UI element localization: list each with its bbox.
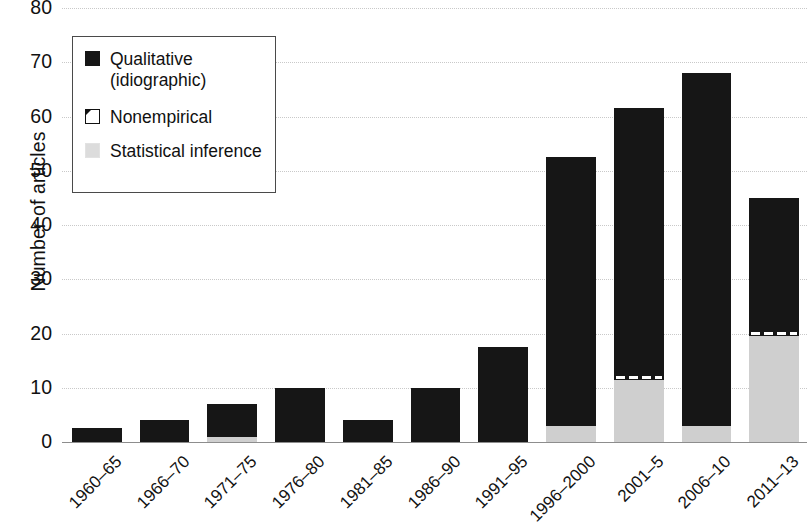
y-tick-label: 40 (8, 215, 52, 235)
bar-segment-qualitative (682, 73, 732, 426)
black-square-icon (85, 51, 100, 66)
y-tick-label: 80 (8, 0, 52, 18)
bar[interactable] (411, 388, 461, 442)
legend-item: Nonempirical (85, 107, 212, 128)
legend-item-label: Qualitative (idiographic) (110, 49, 206, 91)
bar[interactable] (207, 404, 257, 442)
legend-item: Qualitative (idiographic) (85, 49, 206, 91)
bar-segment-statistical-inference (546, 426, 596, 442)
bar-chart-figure: Number of articles 01020304050607080 196… (0, 0, 807, 523)
y-tick-label: 10 (8, 378, 52, 398)
bar-segment-statistical-inference (682, 426, 732, 442)
bar[interactable] (546, 157, 596, 442)
legend-item-label: Statistical inference (110, 141, 262, 162)
legend-item: Statistical inference (85, 141, 262, 162)
bar-segment-qualitative (275, 388, 325, 442)
bar[interactable] (749, 198, 799, 442)
y-tick-label: 50 (8, 161, 52, 181)
bar[interactable] (140, 420, 190, 442)
bar[interactable] (614, 108, 664, 442)
bar-segment-statistical-inference (207, 437, 257, 442)
x-axis-line (62, 442, 807, 443)
bar-segment-qualitative (140, 420, 190, 442)
bar-segment-nonempirical (614, 374, 664, 379)
nonempirical-dash-band (616, 376, 662, 379)
bar-segment-qualitative (72, 428, 122, 442)
bar[interactable] (343, 420, 393, 442)
nonempirical-dash-band (751, 332, 797, 335)
bar-segment-nonempirical (749, 331, 799, 336)
bar-segment-qualitative (207, 404, 257, 437)
bar[interactable] (682, 73, 732, 442)
white-square-icon (85, 109, 100, 124)
gray-square-icon (85, 143, 100, 158)
chart-legend: Qualitative (idiographic)NonempiricalSta… (72, 36, 276, 193)
y-tick-label: 60 (8, 107, 52, 127)
y-tick-label: 20 (8, 324, 52, 344)
gridline (62, 8, 807, 9)
bar-segment-qualitative (749, 198, 799, 331)
bar-segment-qualitative (546, 157, 596, 426)
bar-segment-qualitative (411, 388, 461, 442)
y-tick-label: 30 (8, 269, 52, 289)
bar-segment-statistical-inference (614, 380, 664, 442)
x-tick-label: 1960–65 (0, 452, 126, 523)
y-tick-label: 0 (8, 432, 52, 452)
bar[interactable] (275, 388, 325, 442)
bar[interactable] (72, 428, 122, 442)
y-tick-label: 70 (8, 52, 52, 72)
bar[interactable] (478, 347, 528, 442)
bar-segment-statistical-inference (749, 336, 799, 442)
bar-segment-qualitative (614, 108, 664, 374)
legend-item-label: Nonempirical (110, 107, 212, 128)
bar-segment-qualitative (478, 347, 528, 442)
bar-segment-qualitative (343, 420, 393, 442)
